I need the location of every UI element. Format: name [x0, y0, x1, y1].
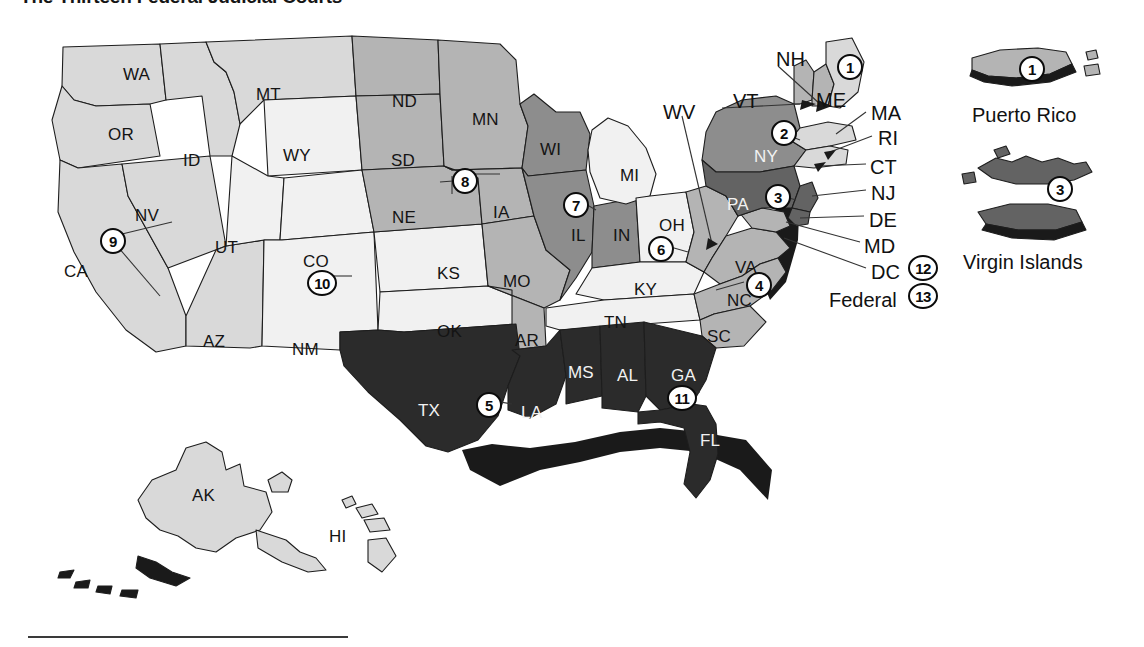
- state-label-nv: NV: [135, 207, 159, 224]
- circuit-badge-9[interactable]: 9: [100, 228, 126, 254]
- state-label-mt: MT: [256, 86, 281, 103]
- circuit-badge-6[interactable]: 6: [648, 236, 674, 262]
- circuit-badge-10[interactable]: 10: [307, 270, 337, 296]
- footer-divider: [28, 636, 348, 638]
- us-circuits-map: .s { stroke:#1d1d1d; stroke-width:1.1; s…: [0, 0, 1144, 647]
- circuit-badge-8[interactable]: 8: [452, 168, 478, 194]
- state-label-ms: MS: [568, 364, 594, 381]
- map-figure: .s { stroke:#1d1d1d; stroke-width:1.1; s…: [0, 0, 1144, 647]
- legend-badge-virgin-islands[interactable]: 3: [1047, 176, 1073, 202]
- state-label-ut: UT: [215, 239, 238, 256]
- state-label-wy: WY: [283, 147, 311, 164]
- state-label-mi: MI: [620, 167, 639, 184]
- state-label-co: CO: [303, 253, 329, 270]
- legend-label-virgin-islands: Virgin Islands: [963, 252, 1083, 272]
- callout-label-md: MD: [864, 236, 895, 256]
- state-label-hi: HI: [329, 528, 346, 545]
- state-label-ok: OK: [437, 323, 462, 340]
- alaska-inset: [58, 442, 326, 598]
- state-label-ak: AK: [192, 487, 215, 504]
- circuit-badge-1[interactable]: 1: [837, 54, 863, 80]
- legend-label-puerto-rico: Puerto Rico: [972, 105, 1077, 125]
- circuit-badge-4[interactable]: 4: [746, 272, 772, 298]
- circuit-badge-11[interactable]: 11: [667, 385, 697, 411]
- state-label-il: IL: [571, 227, 586, 244]
- state-label-nc: NC: [727, 292, 752, 309]
- callout-label-wv: WV: [663, 102, 695, 122]
- state-label-oh: OH: [659, 217, 685, 234]
- circuit-badge-3[interactable]: 3: [765, 184, 791, 210]
- state-label-ny: NY: [754, 148, 778, 165]
- circuit-badge-7[interactable]: 7: [563, 192, 589, 218]
- circuit-badge-12[interactable]: 12: [908, 255, 938, 281]
- state-label-ky: KY: [634, 281, 657, 298]
- callout-label-vt: VT: [733, 91, 759, 111]
- state-label-pa: PA: [727, 196, 749, 213]
- state-label-wa: WA: [123, 66, 150, 83]
- state-label-mn: MN: [472, 111, 499, 128]
- state-label-tx: TX: [418, 402, 440, 419]
- callout-label-ct: CT: [870, 157, 897, 177]
- state-label-or: OR: [108, 126, 134, 143]
- state-label-wi: WI: [540, 141, 561, 158]
- callout-label-nj: NJ: [871, 183, 895, 203]
- hawaii-inset: [342, 496, 396, 572]
- circuit-badge-5[interactable]: 5: [476, 392, 502, 418]
- state-label-ga: GA: [671, 367, 696, 384]
- callout-label-dc: DC: [871, 262, 900, 282]
- state-label-ne: NE: [392, 209, 416, 226]
- callout-label-me: ME: [816, 90, 846, 110]
- state-label-ks: KS: [437, 265, 460, 282]
- circuit-badge-13[interactable]: 13: [908, 283, 938, 309]
- virgin-islands-shape: [962, 146, 1092, 240]
- state-label-sd: SD: [391, 152, 415, 169]
- callout-label-ma: MA: [871, 103, 901, 123]
- callout-label-ri: RI: [878, 128, 898, 148]
- callout-label-federal: Federal: [829, 290, 897, 310]
- state-label-ar: AR: [515, 332, 539, 349]
- state-label-fl: FL: [700, 432, 720, 449]
- legend-badge-puerto-rico[interactable]: 1: [1019, 56, 1045, 82]
- state-label-in: IN: [613, 227, 630, 244]
- state-label-ca: CA: [64, 263, 88, 280]
- state-label-sc: SC: [707, 328, 731, 345]
- state-label-ia: IA: [493, 204, 509, 221]
- circuit-badge-2[interactable]: 2: [771, 120, 797, 146]
- callout-label-nh: NH: [776, 49, 805, 69]
- state-label-tn: TN: [604, 314, 627, 331]
- state-label-az: AZ: [203, 333, 225, 350]
- state-label-al: AL: [617, 367, 638, 384]
- state-label-mo: MO: [503, 273, 531, 290]
- state-label-la: LA: [521, 404, 542, 421]
- state-label-id: ID: [183, 152, 200, 169]
- callout-label-de: DE: [869, 210, 897, 230]
- state-label-nm: NM: [292, 341, 319, 358]
- state-label-nd: ND: [392, 93, 417, 110]
